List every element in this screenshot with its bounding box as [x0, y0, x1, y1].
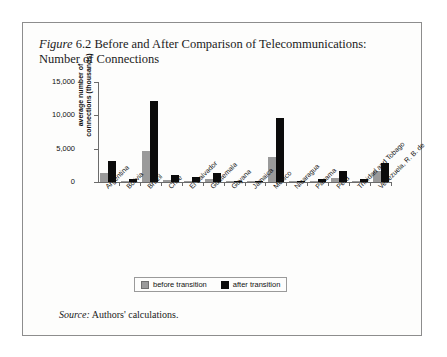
bar-group — [163, 82, 179, 182]
figure-label: Figure — [39, 37, 73, 51]
y-axis-tick-label: 5,000 — [35, 145, 75, 153]
y-axis-tick — [94, 182, 99, 183]
source-label: Source: — [59, 309, 90, 320]
bar-group — [184, 82, 200, 182]
bar-chart: average number of connections (thousands… — [76, 82, 391, 204]
legend-swatch-after-icon — [221, 281, 229, 289]
x-axis-tick — [182, 182, 183, 186]
y-axis-tick — [94, 115, 99, 116]
x-axis-tick — [161, 182, 162, 186]
x-axis-tick — [286, 182, 287, 186]
bar-group — [142, 82, 158, 182]
x-axis-tick — [370, 182, 371, 186]
x-axis-tick — [349, 182, 350, 186]
source-text: Authors' calculations. — [92, 309, 179, 320]
figure-card: Figure 6.2 Before and After Comparison o… — [22, 22, 422, 336]
x-axis-tick — [245, 182, 246, 186]
bar-group — [100, 82, 116, 182]
legend-swatch-before-icon — [141, 281, 149, 289]
x-axis-tick — [265, 182, 266, 186]
x-axis-tick — [119, 182, 120, 186]
x-axis-tick — [203, 182, 204, 186]
legend-label-after: after transition — [233, 280, 281, 289]
y-axis-tick-label: 0 — [35, 178, 75, 186]
bar-group — [289, 82, 305, 182]
x-axis-tick — [328, 182, 329, 186]
source-note: Source: Authors' calculations. — [59, 309, 178, 320]
x-axis-tick — [391, 182, 392, 186]
x-axis-tick — [307, 182, 308, 186]
legend-label-before: before transition — [153, 280, 207, 289]
chart-legend: before transition after transition — [134, 277, 287, 292]
x-axis-tick — [224, 182, 225, 186]
bar-after — [150, 101, 158, 182]
y-axis-line — [98, 82, 99, 182]
y-axis-tick — [94, 149, 99, 150]
legend-item-before: before transition — [141, 280, 207, 289]
legend-item-after: after transition — [221, 280, 281, 289]
x-axis-tick — [140, 182, 141, 186]
y-axis-tick-label: 10,000 — [35, 111, 75, 119]
y-axis-tick — [94, 82, 99, 83]
bar-group — [247, 82, 263, 182]
y-axis-title: average number of connections (thousands… — [77, 43, 91, 147]
y-axis-tick-label: 15,000 — [35, 78, 75, 86]
bar-group — [352, 82, 368, 182]
